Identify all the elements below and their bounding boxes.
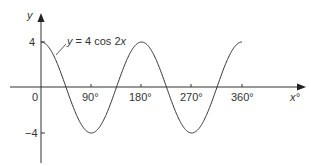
y-axis-arrow-icon [38,13,45,22]
x-axis-arrow-icon [297,84,306,91]
y-axis-label: y [26,9,34,21]
y-tick-label-neg4: −4 [25,127,38,139]
x-tick-label-180: 180° [129,91,152,103]
equation-leader-line [56,44,66,55]
equation-label: y = 4 cos 2x [66,35,127,47]
x-tick-label-90: 90° [82,91,99,103]
x-tick-label-270: 270° [180,91,203,103]
x-tick-label-0: 0 [32,91,38,103]
x-axis-label: x° [289,91,301,103]
chart-canvas: y 4 −4 y = 4 cos 2x 0 90° 180° 270° 360°… [0,0,311,166]
x-tick-label-360: 360° [231,91,254,103]
y-tick-label-4: 4 [29,36,35,48]
